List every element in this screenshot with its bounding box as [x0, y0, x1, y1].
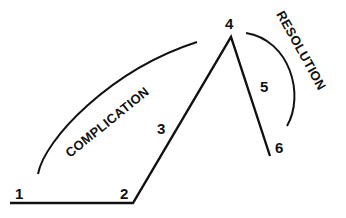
point-label-3: 3 — [157, 120, 165, 137]
complication-label: COMPLICATION — [62, 84, 152, 160]
plot-line — [10, 37, 270, 203]
point-label-2: 2 — [120, 185, 128, 202]
resolution-arc — [246, 33, 294, 126]
point-label-4: 4 — [225, 15, 234, 32]
point-label-6: 6 — [275, 139, 283, 156]
resolution-label: RESOLUTION — [273, 8, 329, 92]
plot-diagram: 1 2 3 4 5 6 COMPLICATION RESOLUTION — [0, 0, 346, 218]
point-label-5: 5 — [260, 78, 268, 95]
point-label-1: 1 — [15, 185, 23, 202]
